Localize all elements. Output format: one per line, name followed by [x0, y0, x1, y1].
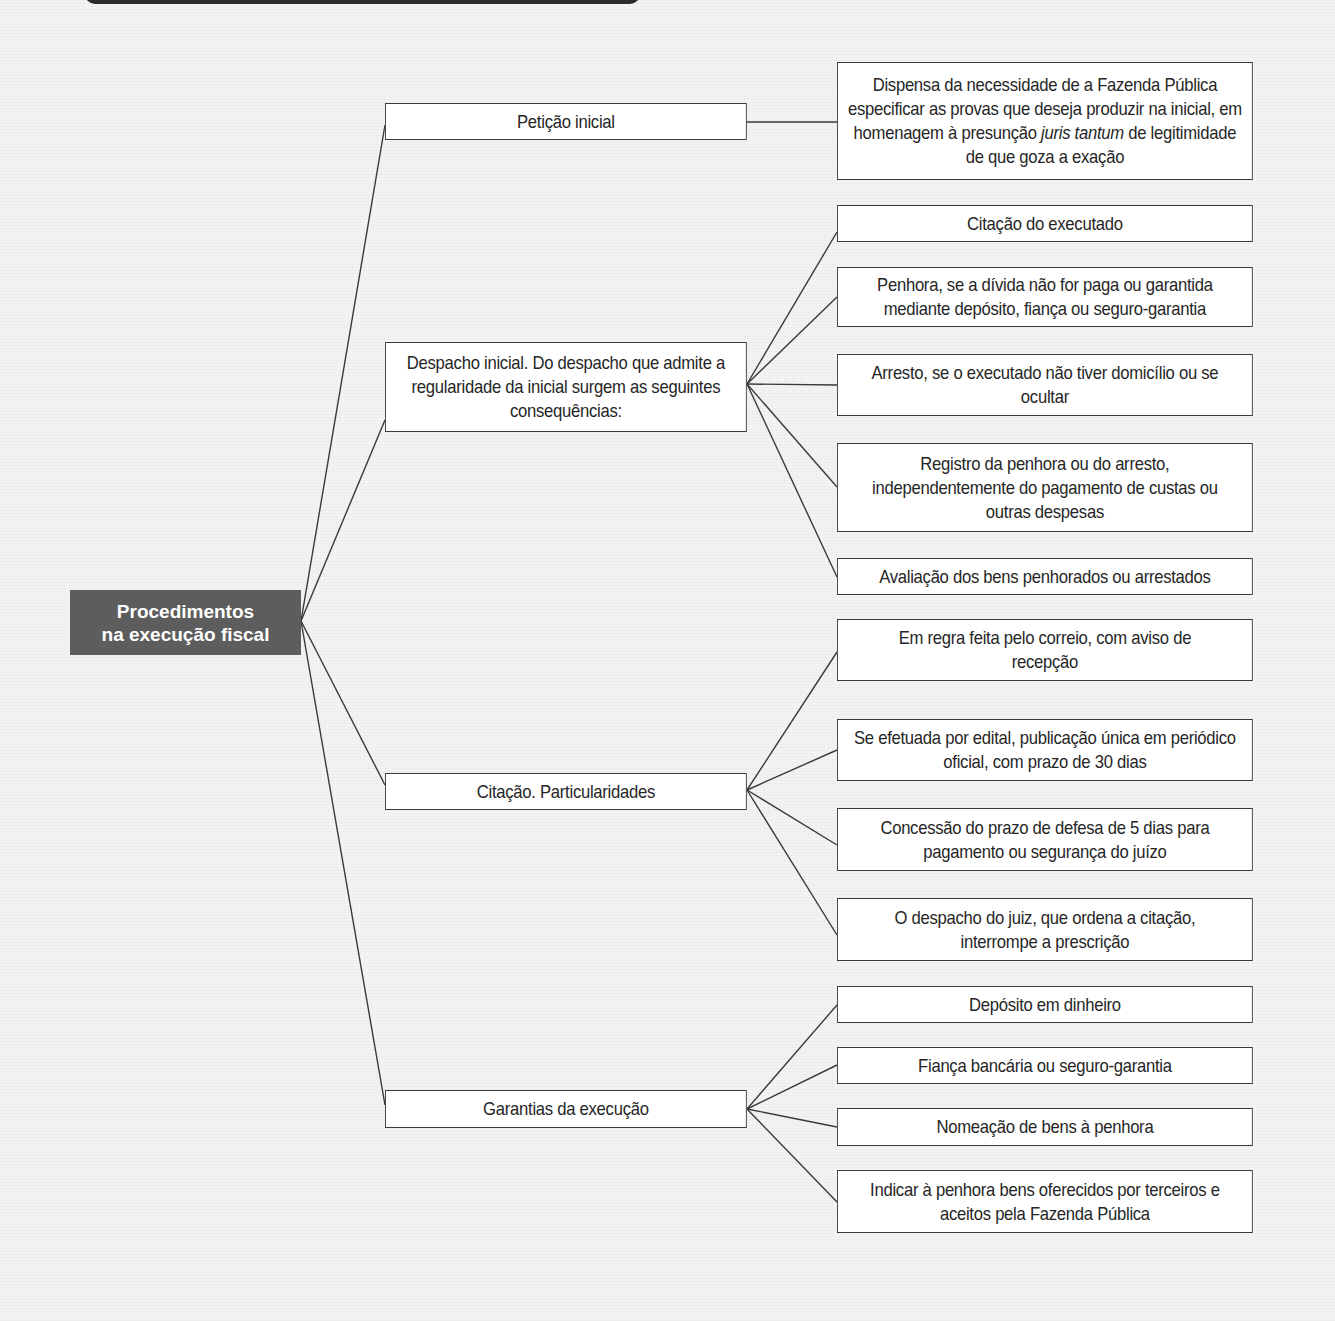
- leaf-nomeacao-bens: Nomeação de bens à penhora: [837, 1108, 1253, 1146]
- branch-garantias-execucao: Garantias da execução: [385, 1090, 747, 1128]
- leaf-prazo-defesa: Concessão do prazo de defesa de 5 dias p…: [837, 808, 1253, 871]
- leaf-avaliacao-bens: Avaliação dos bens penhorados ou arresta…: [837, 558, 1253, 595]
- leaf-registro-penhora: Registro da penhora ou do arresto, indep…: [837, 443, 1253, 532]
- root-label-line2: na execução fiscal: [102, 623, 270, 646]
- leaf-edital: Se efetuada por edital, publicação única…: [837, 719, 1253, 781]
- branch-peticao-inicial: Petição inicial: [385, 103, 747, 140]
- leaf-penhora: Penhora, se a dívida não for paga ou gar…: [837, 267, 1253, 327]
- root-node: Procedimentos na execução fiscal: [70, 590, 301, 655]
- branch-citacao-particularidades: Citação. Particularidades: [385, 773, 747, 810]
- italic-term: juris tantum: [1041, 122, 1124, 143]
- leaf-deposito-dinheiro: Depósito em dinheiro: [837, 986, 1253, 1023]
- leaf-bens-terceiros: Indicar à penhora bens oferecidos por te…: [837, 1170, 1253, 1233]
- leaf-correio-aviso: Em regra feita pelo correio, com aviso d…: [837, 619, 1253, 681]
- leaf-arresto: Arresto, se o executado não tiver domicí…: [837, 354, 1253, 416]
- leaf-citacao-executado: Citação do executado: [837, 205, 1253, 242]
- branch-despacho-inicial: Despacho inicial. Do despacho que admite…: [385, 342, 747, 432]
- leaf-fianca-bancaria: Fiança bancária ou seguro-garantia: [837, 1047, 1253, 1084]
- leaf-dispensa-provas: Dispensa da necessidade de a Fazenda Púb…: [837, 62, 1253, 180]
- leaf-despacho-juiz: O despacho do juiz, que ordena a citação…: [837, 898, 1253, 961]
- root-label-line1: Procedimentos: [102, 600, 270, 623]
